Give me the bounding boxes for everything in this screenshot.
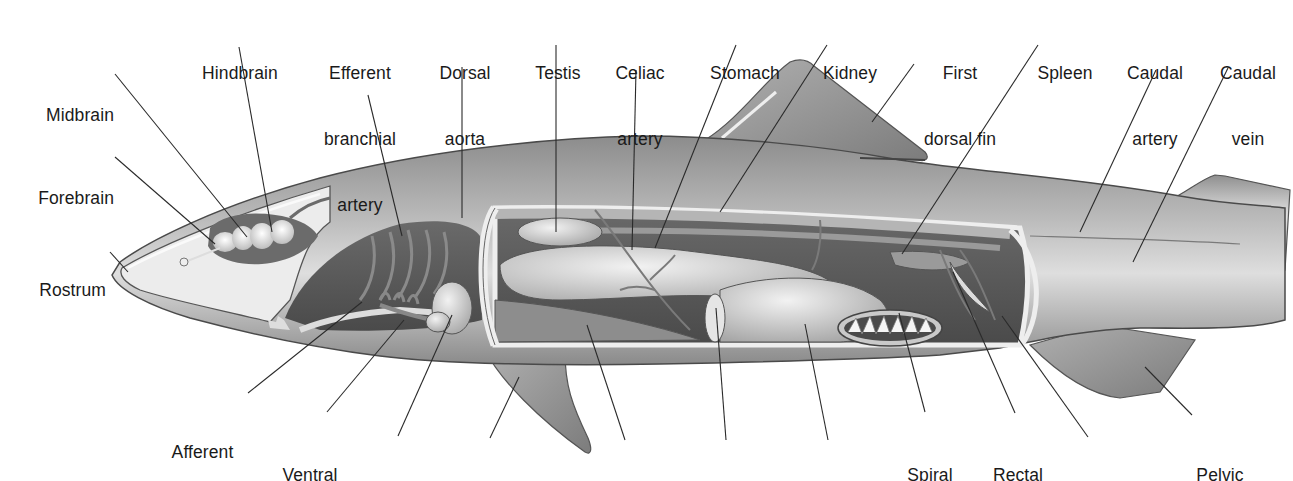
- label-spleen: Spleen: [1025, 18, 1105, 128]
- label-first-dorsal-fin: First dorsal fin: [910, 18, 1010, 194]
- label-rostrum: Rostrum: [18, 235, 106, 345]
- label-efferent-branchial-artery: Efferent branchial artery: [310, 18, 410, 260]
- label-rectal-gland: Rectal gland: [983, 420, 1053, 481]
- leader-forebrain: [115, 157, 215, 244]
- label-hindbrain: Hindbrain: [185, 18, 295, 128]
- label-cloaca: Cloaca: [1070, 443, 1150, 481]
- leader-pectoral-fin: [490, 377, 519, 438]
- label-heart: Heart: [360, 443, 430, 481]
- label-afferent-branchial-artery: Afferent branchial artery: [150, 397, 255, 481]
- label-caudal-artery: Caudal artery: [1115, 18, 1195, 194]
- label-celiac-artery: Celiac artery: [600, 18, 680, 194]
- label-pancreas: Pancreas: [680, 443, 780, 481]
- label-intestine: Intestine: [790, 443, 880, 481]
- label-dorsal-aorta: Dorsal aorta: [425, 18, 505, 194]
- label-liver: Liver: [600, 443, 660, 481]
- label-pelvic-fin: Pelvic fin: [1185, 420, 1255, 481]
- shark-anatomy-diagram: Midbrain Forebrain Rostrum Hindbrain Eff…: [0, 0, 1293, 481]
- spiral-valve-shape: [838, 310, 942, 346]
- label-spiral-valve: Spiral valve: [895, 420, 965, 481]
- label-ventral-aorta: Ventral aorta: [270, 420, 350, 481]
- label-stomach: Stomach: [695, 18, 795, 128]
- label-pectoral-fin: Pectoral fin: [440, 443, 560, 481]
- label-caudal-vein: Caudal vein: [1208, 18, 1288, 194]
- label-kidney: Kidney: [810, 18, 890, 128]
- label-testis: Testis: [520, 18, 596, 128]
- abdominal-cavity: [483, 208, 1036, 346]
